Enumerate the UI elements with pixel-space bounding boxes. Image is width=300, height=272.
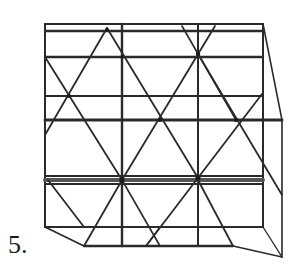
bottom-brackets (45, 227, 282, 257)
lattice-drawing (0, 0, 300, 272)
figure-number-label: 5. (8, 232, 28, 258)
right-slanted-edge (263, 24, 282, 257)
diagonal-members (45, 26, 282, 246)
lattice-figure: 5. (0, 0, 300, 272)
